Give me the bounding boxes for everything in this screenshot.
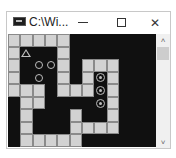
floor-cell (144, 34, 156, 47)
floor-cell (119, 34, 131, 47)
floor-cell (119, 72, 131, 85)
chevron-down-icon: ˅ (161, 138, 166, 147)
target-icon (96, 73, 105, 82)
floor-cell (107, 47, 119, 60)
floor-cell (119, 109, 131, 122)
vertical-scrollbar[interactable]: ˄ ˅ (156, 34, 170, 148)
box-circle-icon (47, 61, 55, 69)
floor-cell (94, 97, 106, 110)
floor-cell (144, 72, 156, 85)
floor-cell (144, 97, 156, 110)
wall-cell (57, 134, 69, 147)
floor-cell (119, 122, 131, 135)
chevron-up-icon: ˄ (161, 36, 166, 45)
wall-cell (94, 59, 106, 72)
wall-cell (8, 59, 20, 72)
close-button[interactable]: ✕ (141, 12, 169, 33)
box-circle-icon (35, 74, 43, 82)
floor-cell (131, 84, 143, 97)
wall-cell (107, 72, 119, 85)
box-circle-icon-wrap (33, 72, 45, 85)
floor-cell (45, 122, 57, 135)
floor-cell (82, 34, 94, 47)
floor-cell (144, 109, 156, 122)
floor-cell (107, 34, 119, 47)
floor-cell (70, 34, 82, 47)
floor-cell (119, 59, 131, 72)
wall-cell (20, 34, 32, 47)
floor-cell (57, 97, 69, 110)
box-circle-icon-wrap (33, 59, 45, 72)
wall-cell (70, 84, 82, 97)
floor-cell (33, 59, 45, 72)
floor-cell (20, 59, 32, 72)
floor-cell (45, 109, 57, 122)
floor-cell (8, 122, 20, 135)
floor-cell (82, 97, 94, 110)
scroll-up-button[interactable]: ˄ (156, 34, 170, 46)
console-window: C:\Wi... ✕ ˄ ˅ (6, 11, 171, 149)
floor-cell (94, 47, 106, 60)
floor-cell (94, 134, 106, 147)
floor-cell (8, 134, 20, 147)
wall-cell (107, 84, 119, 97)
floor-cell (131, 72, 143, 85)
floor-cell (119, 47, 131, 60)
floor-cell (131, 59, 143, 72)
title-bar[interactable]: C:\Wi... ✕ (7, 12, 170, 33)
floor-cell (144, 122, 156, 135)
floor-cell (144, 84, 156, 97)
floor-cell (119, 84, 131, 97)
floor-cell (131, 122, 143, 135)
floor-cell (107, 134, 119, 147)
console-app-icon (13, 17, 26, 26)
floor-cell (45, 72, 57, 85)
target-icon (96, 99, 105, 108)
floor-cell (131, 109, 143, 122)
box-circle-icon (35, 61, 43, 69)
wall-cell (33, 97, 45, 110)
floor-cell (8, 109, 20, 122)
wall-cell (70, 134, 82, 147)
wall-cell (20, 84, 32, 97)
wall-cell (70, 109, 82, 122)
floor-cell (94, 109, 106, 122)
wall-cell (57, 59, 69, 72)
floor-cell (94, 84, 106, 97)
wall-cell (33, 134, 45, 147)
floor-cell (8, 97, 20, 110)
wall-cell (82, 84, 94, 97)
floor-cell (33, 122, 45, 135)
target-icon-wrap (94, 97, 106, 110)
player-triangle-icon-wrap (20, 47, 32, 60)
floor-cell (70, 72, 82, 85)
minimize-button[interactable] (69, 12, 97, 33)
scroll-thumb[interactable] (157, 47, 169, 60)
scroll-down-button[interactable]: ˅ (156, 136, 170, 148)
floor-cell (57, 109, 69, 122)
floor-cell (45, 47, 57, 60)
target-icon-wrap (94, 72, 106, 85)
wall-cell (57, 72, 69, 85)
window-title: C:\Wi... (29, 15, 68, 29)
target-icon-wrap (94, 84, 106, 97)
wall-cell (94, 122, 106, 135)
floor-cell (94, 72, 106, 85)
wall-cell (33, 84, 45, 97)
floor-cell (45, 59, 57, 72)
wall-cell (20, 134, 32, 147)
maximize-button[interactable] (107, 12, 135, 33)
wall-cell (8, 84, 20, 97)
floor-cell (45, 84, 57, 97)
floor-cell (131, 34, 143, 47)
floor-cell (33, 72, 45, 85)
game-board (8, 34, 156, 147)
floor-cell (70, 59, 82, 72)
floor-cell (131, 47, 143, 60)
maximize-icon (117, 18, 126, 27)
floor-cell (70, 47, 82, 60)
close-icon: ✕ (150, 16, 160, 30)
wall-cell (20, 122, 32, 135)
wall-cell (8, 47, 20, 60)
wall-cell (8, 34, 20, 47)
